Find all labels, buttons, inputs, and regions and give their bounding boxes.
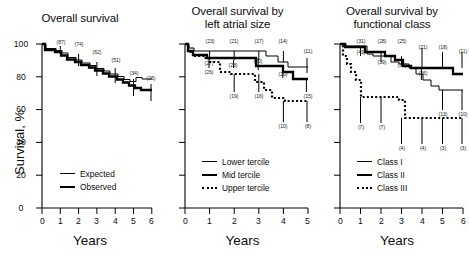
at-risk-label: (19) [225, 93, 243, 99]
survival-curves-figure: Overall survival Survival, % [0, 0, 469, 258]
at-risk-label: (28) [373, 38, 391, 44]
x-tick-3: 3 [394, 216, 409, 226]
at-risk-label: (10) [274, 123, 292, 129]
x-tick-1: 1 [353, 216, 368, 226]
x-axis-label: Years [170, 233, 315, 248]
legend-item-lower-tercile: Lower tercile [202, 156, 269, 167]
at-risk-label: (51) [107, 57, 125, 63]
at-risk-label: (21) [414, 44, 432, 50]
at-risk-label: (31) [352, 38, 370, 44]
panel-functional-class: Overall survival by functional class [315, 0, 469, 258]
x-tick-1: 1 [202, 216, 217, 226]
at-risk-label: (20) [274, 71, 292, 77]
at-risk-label: (23) [224, 62, 242, 68]
x-axis-label: Years [20, 233, 160, 248]
at-risk-label: (3) [434, 145, 452, 151]
x-tick-0: 0 [178, 216, 193, 226]
at-risk-label: (17) [250, 38, 268, 44]
panel-overall-survival: Overall survival Survival, % [0, 0, 160, 258]
x-tick-0: 0 [333, 216, 348, 226]
at-risk-label: (74) [70, 41, 88, 47]
y-tick-40: 40 [8, 137, 34, 147]
at-risk-label: (4) [393, 145, 411, 151]
legend-label: Observed [80, 182, 116, 192]
at-risk-label: (18) [434, 44, 452, 50]
x-tick-5: 5 [435, 216, 450, 226]
legend-label: Lower tercile [222, 157, 269, 167]
x-tick-4: 4 [108, 216, 123, 226]
legend-label: Class II [377, 170, 405, 180]
x-tick-1: 1 [53, 216, 68, 226]
at-risk-label: (7) [352, 124, 370, 130]
legend-item-upper-tercile: Upper tercile [202, 182, 269, 193]
at-risk-label: (34) [125, 70, 143, 76]
legend-item-class-iii: Class III [357, 182, 407, 193]
legend-item-mid-tercile: Mid tercile [202, 169, 269, 180]
legend-label: Class I [377, 157, 403, 167]
x-tick-4: 4 [415, 216, 430, 226]
x-tick-4: 4 [276, 216, 291, 226]
at-risk-label: (26) [414, 70, 432, 76]
legend-key-thin-line-icon [202, 161, 217, 162]
at-risk-label: (13) [434, 111, 452, 117]
at-risk-label: (10) [454, 111, 469, 117]
at-risk-label: (7) [373, 124, 391, 130]
legend-label: Class III [377, 183, 407, 193]
x-tick-2: 2 [71, 216, 86, 226]
at-risk-label: (33) [393, 62, 411, 68]
x-tick-5: 5 [126, 216, 141, 226]
panel-3-legend: Class I Class II Class III [357, 156, 407, 195]
at-risk-label: (20) [249, 58, 267, 64]
at-risk-label: (16) [250, 93, 268, 99]
x-tick-6: 6 [144, 216, 159, 226]
x-tick-3: 3 [89, 216, 104, 226]
x-axis-label: Years [325, 233, 469, 248]
at-risk-label: (25) [393, 38, 411, 44]
y-tick-60: 60 [8, 104, 34, 114]
y-tick-100: 100 [8, 39, 34, 49]
legend-key-dotted-line-icon [202, 187, 217, 189]
at-risk-label: (23) [201, 38, 219, 44]
x-tick-2: 2 [227, 216, 242, 226]
legend-item-observed: Observed [60, 181, 116, 192]
x-tick-0: 0 [35, 216, 50, 226]
at-risk-label: (26) [142, 75, 160, 81]
at-risk-label: (26) [200, 69, 218, 75]
legend-label: Mid tercile [222, 170, 260, 180]
legend-label: Expected [80, 169, 115, 179]
at-risk-label: (39) [373, 59, 391, 65]
legend-key-thick-line-icon [357, 174, 372, 176]
x-tick-3: 3 [251, 216, 266, 226]
y-tick-20: 20 [8, 170, 34, 180]
x-tick-2: 2 [374, 216, 389, 226]
at-risk-label: (21) [225, 38, 243, 44]
legend-label: Upper tercile [222, 183, 269, 193]
legend-key-thick-line-icon [202, 174, 217, 176]
at-risk-label: (87) [52, 39, 70, 45]
legend-item-class-ii: Class II [357, 169, 407, 180]
y-tick-0: 0 [8, 203, 34, 213]
panel-left-atrial-size: Overall survival by left atrial size [160, 0, 315, 258]
x-tick-5: 5 [300, 216, 315, 226]
at-risk-label: (14) [274, 38, 292, 44]
legend-key-thick-line-icon [60, 186, 75, 188]
at-risk-label: (62) [88, 49, 106, 55]
legend-key-dotted-line-icon [357, 187, 372, 189]
at-risk-label: (11) [454, 48, 469, 54]
at-risk-label: (49) [352, 49, 370, 55]
legend-item-class-i: Class I [357, 156, 407, 167]
legend-key-thin-line-icon [357, 161, 372, 162]
y-tick-80: 80 [8, 72, 34, 82]
at-risk-label: (3) [454, 145, 469, 151]
legend-key-thin-line-icon [60, 173, 75, 174]
at-risk-label: (27) [200, 60, 218, 66]
legend-item-expected: Expected [60, 168, 116, 179]
panel-1-legend: Expected Observed [60, 168, 116, 194]
panel-2-legend: Lower tercile Mid tercile Upper tercile [202, 156, 269, 195]
x-tick-6: 6 [456, 216, 469, 226]
at-risk-label: (4) [414, 145, 432, 151]
